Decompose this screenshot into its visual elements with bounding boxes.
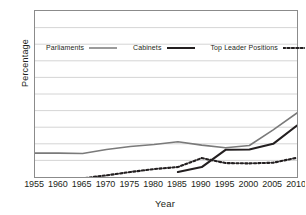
legend-label: Parliaments bbox=[46, 44, 84, 52]
legend-swatch bbox=[89, 45, 117, 51]
y-axis-title: Percentage bbox=[20, 8, 30, 118]
legend-item-parliaments: Parliaments bbox=[46, 44, 117, 52]
legend-swatch bbox=[283, 45, 305, 51]
legend-label: Top Leader Positions bbox=[211, 44, 278, 52]
chart-legend: ParliamentsCabinetsTop Leader Positions bbox=[46, 44, 305, 52]
legend-item-cabinets: Cabinets bbox=[133, 44, 194, 52]
x-axis-title: Year bbox=[34, 198, 296, 209]
plot-area bbox=[34, 10, 298, 178]
legend-swatch bbox=[167, 45, 195, 51]
legend-item-top-leader-positions: Top Leader Positions bbox=[211, 44, 306, 52]
chart-figure: Percentage 05101520253035404550 19551960… bbox=[0, 0, 305, 215]
series-lines bbox=[35, 11, 297, 177]
legend-label: Cabinets bbox=[133, 44, 161, 52]
x-tick-label: 2010 bbox=[279, 180, 305, 189]
series-line-cabinets bbox=[178, 126, 297, 172]
series-line-top-leader-positions bbox=[59, 158, 297, 179]
